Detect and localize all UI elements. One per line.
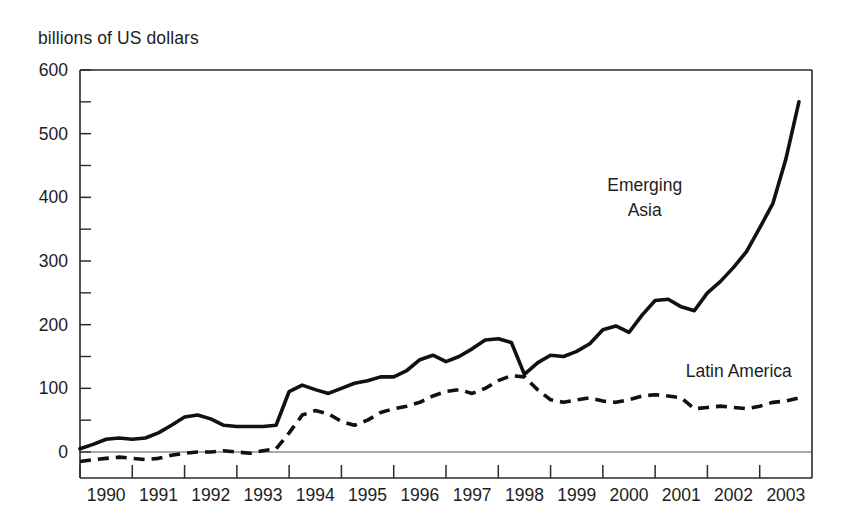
x-tick-label: 2003 xyxy=(766,485,805,505)
y-tick-label: 300 xyxy=(39,251,68,271)
line-chart-plot: 0100200300400500600 19901991199219931994… xyxy=(0,0,845,523)
x-tick-label: 1995 xyxy=(348,485,387,505)
x-axis-tick-labels: 1990199119921993199419951996199719981999… xyxy=(87,485,806,505)
y-axis-tick-marks xyxy=(80,70,91,452)
series-label-latin-america: Latin America xyxy=(686,361,792,381)
series-line-emerging-asia xyxy=(80,102,799,449)
x-tick-label: 1996 xyxy=(400,485,439,505)
y-tick-label: 600 xyxy=(39,60,68,80)
x-tick-label: 1998 xyxy=(505,485,544,505)
series-label-emerging-asia: EmergingAsia xyxy=(607,175,682,220)
series-line-latin-america xyxy=(80,376,799,462)
x-tick-label: 1999 xyxy=(557,485,596,505)
x-tick-label: 1994 xyxy=(296,485,335,505)
x-tick-label: 2002 xyxy=(714,485,753,505)
y-tick-label: 200 xyxy=(39,315,68,335)
chart-figure: billions of US dollars 01002003004005006… xyxy=(0,0,845,523)
x-tick-label: 1991 xyxy=(139,485,178,505)
y-tick-label: 400 xyxy=(39,187,68,207)
x-tick-label: 1990 xyxy=(87,485,126,505)
y-tick-label: 100 xyxy=(39,378,68,398)
y-tick-label: 500 xyxy=(39,124,68,144)
series-annotations: EmergingAsiaLatin America xyxy=(607,175,792,381)
x-tick-label: 1997 xyxy=(453,485,492,505)
x-tick-label: 1992 xyxy=(191,485,230,505)
x-tick-label: 1993 xyxy=(244,485,283,505)
x-axis-tick-marks xyxy=(80,465,760,478)
x-tick-label: 2000 xyxy=(610,485,649,505)
y-axis-tick-labels: 0100200300400500600 xyxy=(39,60,68,462)
x-tick-label: 2001 xyxy=(662,485,701,505)
y-tick-label: 0 xyxy=(58,442,68,462)
